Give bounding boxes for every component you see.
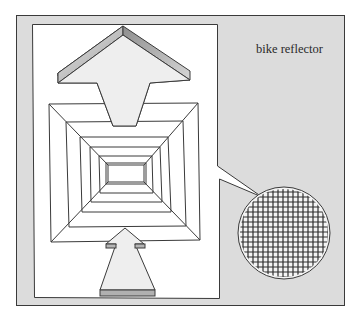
bike-reflector-diagram: bike reflector xyxy=(0,0,361,325)
title-label: bike reflector xyxy=(256,42,323,57)
magnified-grid-circle xyxy=(238,187,330,279)
